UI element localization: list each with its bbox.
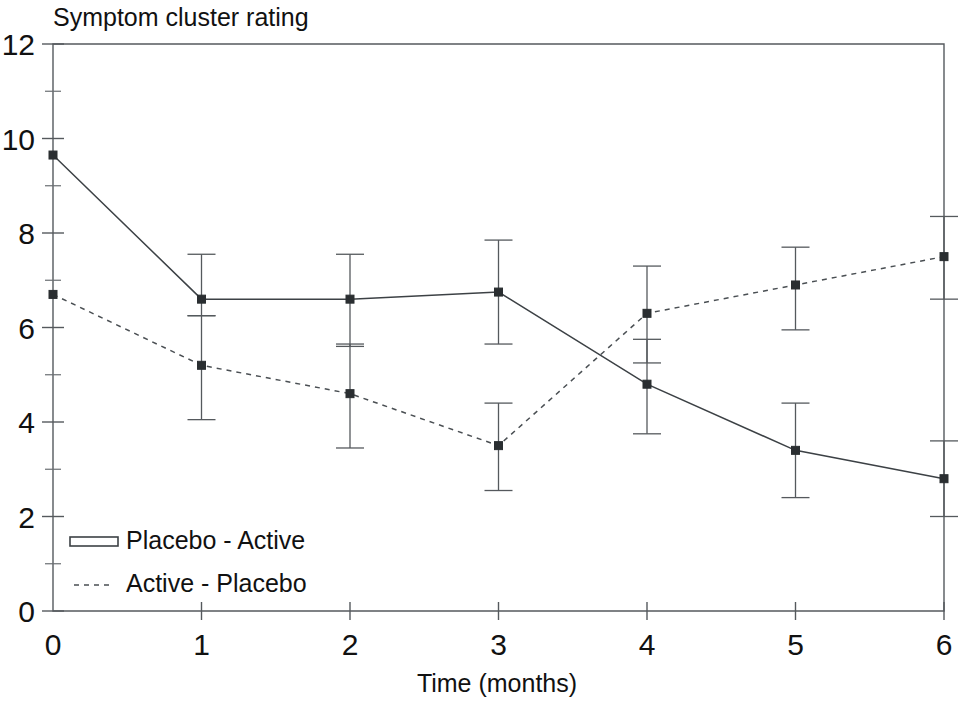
- y-tick-label: 2: [18, 501, 35, 534]
- data-point-marker: [346, 390, 354, 398]
- x-tick-label: 6: [936, 628, 953, 661]
- y-tick-label: 0: [18, 595, 35, 628]
- data-point-marker: [495, 288, 503, 296]
- chart-canvas: Symptom cluster rating 024681012 0123456…: [0, 0, 971, 708]
- x-tick-label: 1: [193, 628, 210, 661]
- y-tick-label: 12: [2, 28, 35, 61]
- x-tick-label: 2: [342, 628, 359, 661]
- data-point-marker: [49, 290, 57, 298]
- data-point-marker: [346, 295, 354, 303]
- data-point-marker: [49, 151, 57, 159]
- data-point-marker: [940, 253, 948, 261]
- data-point-marker: [495, 442, 503, 450]
- data-point-marker: [643, 309, 651, 317]
- data-point-marker: [643, 380, 651, 388]
- x-tick-label: 3: [490, 628, 507, 661]
- chart-title-group: Symptom cluster rating: [53, 3, 309, 31]
- data-point-marker: [792, 446, 800, 454]
- x-axis-label-group: Time (months): [417, 669, 577, 697]
- error-bars-group: [188, 216, 959, 516]
- y-tick-label: 10: [2, 123, 35, 156]
- legend-item: Placebo - Active: [70, 526, 305, 554]
- x-tick-label: 4: [639, 628, 656, 661]
- symptom-cluster-rating-chart: Symptom cluster rating 024681012 0123456…: [0, 0, 971, 708]
- chart-legend: Placebo - ActiveActive - Placebo: [70, 526, 307, 597]
- y-tick-label: 6: [18, 312, 35, 345]
- error-bar: [188, 254, 216, 315]
- chart-title: Symptom cluster rating: [53, 3, 309, 31]
- data-point-marker: [792, 281, 800, 289]
- x-tick-label: 0: [45, 628, 62, 661]
- legend-label: Active - Placebo: [126, 569, 307, 597]
- y-tick-label: 8: [18, 217, 35, 250]
- x-axis-label: Time (months): [417, 669, 577, 697]
- data-point-marker: [198, 361, 206, 369]
- y-axis-tick-labels: 024681012: [2, 28, 35, 628]
- legend-item: Active - Placebo: [74, 569, 307, 597]
- x-axis-tick-labels: 0123456: [45, 628, 953, 661]
- y-tick-label: 4: [18, 406, 35, 439]
- data-point-marker: [198, 295, 206, 303]
- data-point-marker: [940, 475, 948, 483]
- legend-label: Placebo - Active: [126, 526, 305, 554]
- x-tick-label: 5: [787, 628, 804, 661]
